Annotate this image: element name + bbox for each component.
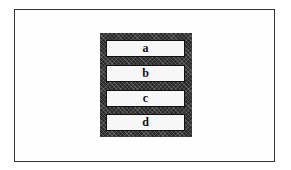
slot-label: c [143,91,148,106]
stack-container: a b c d [100,33,192,137]
slot-b: b [106,65,185,82]
slot-label: a [143,41,149,56]
slot-d: d [106,114,185,131]
slot-c: c [106,90,185,107]
slot-label: b [142,66,149,81]
slot-label: d [142,115,149,130]
slot-a: a [106,40,185,57]
